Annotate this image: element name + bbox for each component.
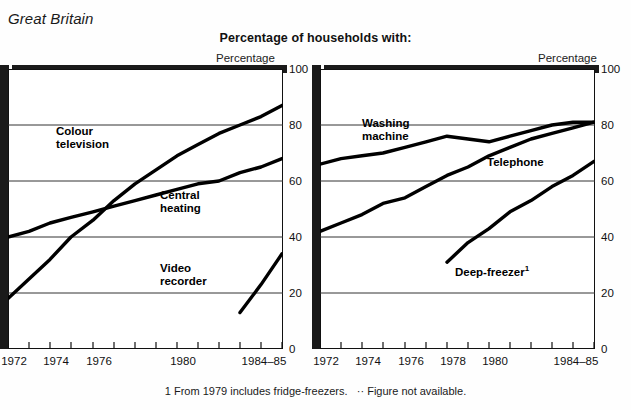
x-tick-1984-85: 1984–85	[545, 356, 607, 368]
y-tick-40: 40	[601, 232, 614, 244]
y-axis-caption-left: Percentage	[216, 52, 275, 64]
x-tick-1978: 1978	[433, 356, 473, 368]
x-tick-1972: 1972	[306, 356, 346, 368]
series-label-video-recorder: Videorecorder	[160, 262, 207, 288]
series-line-video-recorder	[240, 254, 282, 313]
series-line-deep-freezer	[447, 161, 594, 262]
gridlines-left	[8, 125, 283, 293]
series-label-deep-freezer: Deep-freezer1	[455, 265, 529, 279]
series-line-colour-television	[8, 105, 282, 298]
x-tick-1980: 1980	[163, 356, 203, 368]
line-chart-svg-left	[8, 69, 283, 349]
footnote-marker-deep-freezer: 1	[525, 264, 529, 273]
xticks-left	[8, 341, 282, 349]
series-label-washing-machine: Washingmachine	[362, 117, 410, 143]
series-label-colour-television: Colourtelevision	[56, 125, 109, 151]
chart-page: Great Britain Percentage of households w…	[0, 0, 631, 410]
y-tick-60: 60	[289, 176, 302, 188]
x-tick-1974: 1974	[36, 356, 76, 368]
x-tick-1984-85: 1984–85	[233, 356, 295, 368]
xticks-right	[320, 341, 594, 349]
footnote-number: 1	[165, 385, 171, 397]
y-tick-0: 0	[289, 344, 295, 356]
y-tick-0: 0	[601, 344, 607, 356]
x-tick-1972: 1972	[0, 356, 34, 368]
x-tick-1974: 1974	[348, 356, 388, 368]
x-tick-1976: 1976	[391, 356, 431, 368]
y-tick-100: 100	[289, 64, 308, 76]
y-tick-20: 20	[289, 288, 302, 300]
series-label-telephone: Telephone	[487, 156, 544, 169]
na-symbol: ··	[357, 385, 364, 397]
page-title: Percentage of households with:	[0, 31, 631, 45]
y-axis-caption-right: Percentage	[538, 52, 597, 64]
region-title: Great Britain	[8, 10, 94, 27]
series-label-central-heating: Centralheating	[160, 189, 201, 215]
footnote-text: From 1979 includes fridge-freezers.	[174, 385, 348, 397]
y-tick-20: 20	[601, 288, 614, 300]
x-tick-1976: 1976	[79, 356, 119, 368]
y-tick-80: 80	[289, 120, 302, 132]
series-line-central-heating	[8, 159, 282, 237]
footnote: 1 From 1979 includes fridge-freezers. ··…	[0, 385, 631, 397]
na-text: Figure not available.	[367, 385, 466, 397]
y-tick-80: 80	[601, 120, 614, 132]
line-chart-svg-right	[320, 69, 595, 349]
y-tick-60: 60	[601, 176, 614, 188]
y-tick-40: 40	[289, 232, 302, 244]
y-tick-100: 100	[601, 64, 620, 76]
x-tick-1980: 1980	[475, 356, 515, 368]
